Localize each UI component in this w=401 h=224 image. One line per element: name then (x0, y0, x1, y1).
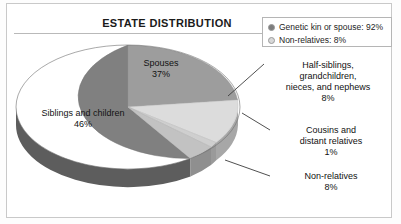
pie-label-spouses: Spouses 37% (118, 58, 204, 80)
pie-label-spouses-name: Spouses (118, 58, 204, 69)
callout-nonrel-value: 8% (272, 182, 390, 193)
callout-half-value: 8% (266, 93, 390, 104)
legend-item-label: Non-relatives: 8% (279, 35, 346, 45)
legend-dot-icon (268, 24, 275, 31)
pie-label-siblings-value: 46% (22, 119, 144, 130)
pie-label-siblings-name: Siblings and children (22, 108, 144, 119)
legend-item-label: Genetic kin or spouse: 92% (279, 22, 383, 32)
pie-label-siblings: Siblings and children 46% (22, 108, 144, 130)
chart-legend: Genetic kin or spouse: 92% Non-relatives… (262, 17, 392, 47)
title-divider (14, 33, 272, 34)
callout-cousins: Cousins and distant relatives 1% (272, 125, 390, 158)
pie-label-spouses-value: 37% (118, 69, 204, 80)
callout-cousins-line2: distant relatives (272, 136, 390, 147)
callout-half-line2: grandchildren, (266, 71, 390, 82)
callout-non-relatives: Non-relatives 8% (272, 171, 390, 193)
callout-half-siblings: Half-siblings, grandchildren, nieces, an… (266, 60, 390, 104)
callout-nonrel-line1: Non-relatives (272, 171, 390, 182)
callout-half-line1: Half-siblings, (266, 60, 390, 71)
chart-panel: ESTATE DISTRIBUTION Genetic kin or spous… (0, 0, 401, 224)
legend-item-non-relatives: Non-relatives: 8% (268, 34, 387, 46)
legend-item-genetic-kin: Genetic kin or spouse: 92% (268, 21, 387, 33)
chart-title: ESTATE DISTRIBUTION (72, 17, 262, 29)
legend-dot-icon (268, 37, 275, 44)
callout-cousins-line1: Cousins and (272, 125, 390, 136)
callout-half-line3: nieces, and nephews (266, 82, 390, 93)
callout-cousins-value: 1% (272, 147, 390, 158)
